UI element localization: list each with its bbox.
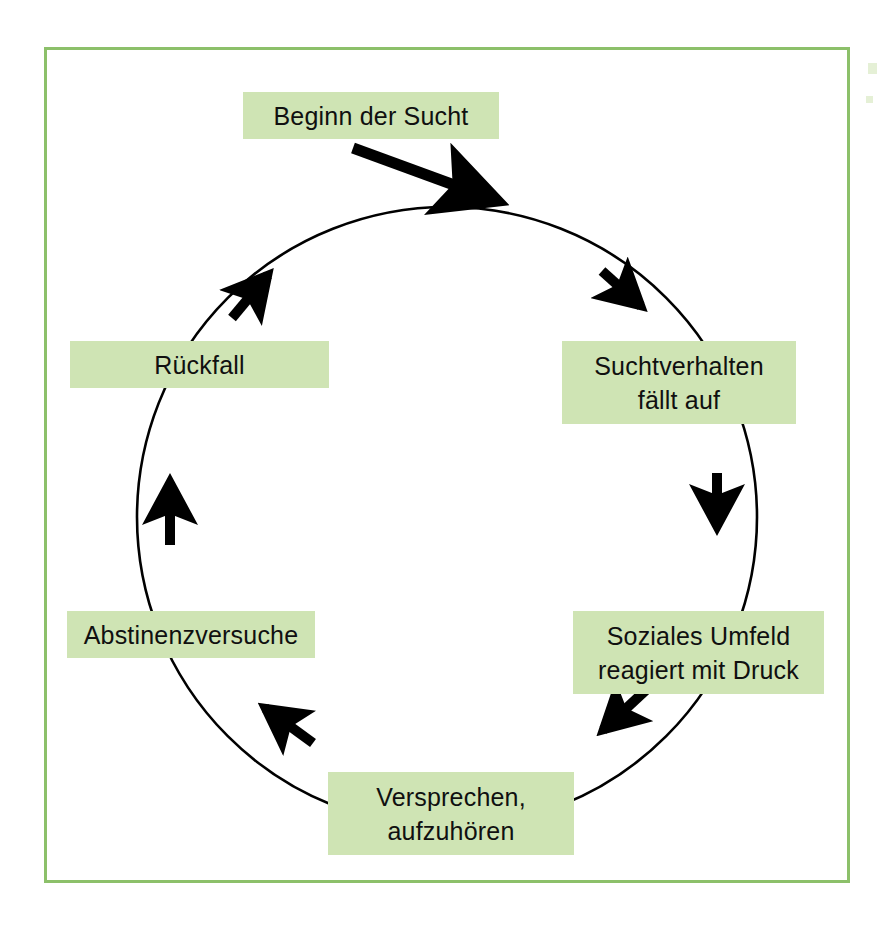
cycle-node-suchtverhalten-faellt-auf: Suchtverhalten fällt auf	[562, 341, 796, 424]
cycle-node-beginn-der-sucht: Beginn der Sucht	[243, 92, 499, 139]
cycle-node-label: Abstinenzversuche	[84, 618, 299, 652]
diagram-frame	[44, 47, 850, 883]
cycle-node-label: Suchtverhalten	[594, 349, 764, 383]
cycle-node-label-line2: fällt auf	[638, 383, 720, 417]
cycle-node-rueckfall: Rückfall	[70, 341, 329, 388]
cycle-node-label: Versprechen,	[376, 780, 526, 814]
cycle-node-label: Beginn der Sucht	[274, 99, 469, 133]
diagram-page: Beginn der Sucht Suchtverhalten fällt au…	[0, 0, 893, 927]
cycle-node-versprechen-aufzuhoeren: Versprechen, aufzuhören	[328, 772, 574, 855]
cycle-node-label-line2: reagiert mit Druck	[598, 653, 799, 687]
margin-mark-lower	[866, 96, 873, 103]
page-margin-marks	[866, 63, 886, 125]
margin-mark-upper	[868, 63, 877, 74]
cycle-node-abstinenzversuche: Abstinenzversuche	[67, 611, 315, 658]
cycle-node-label: Soziales Umfeld	[607, 619, 791, 653]
cycle-node-soziales-umfeld: Soziales Umfeld reagiert mit Druck	[573, 611, 824, 694]
cycle-node-label-line2: aufzuhören	[387, 814, 514, 848]
cycle-node-label: Rückfall	[154, 348, 245, 382]
